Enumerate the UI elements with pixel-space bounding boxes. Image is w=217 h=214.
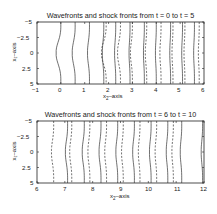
bottom-wavefront-curve <box>82 121 84 183</box>
top-shock-front-curve <box>118 22 121 84</box>
top-wavefront-curve <box>170 22 171 84</box>
bottom-shock-front-curve <box>155 121 157 183</box>
bottom-shock-front-curve <box>172 121 173 183</box>
bottom-shock-front-curve <box>138 121 140 183</box>
bottom-wavefront-curve <box>116 121 118 183</box>
top-wavefront-curve <box>129 22 130 84</box>
bottom-shock-front-curve <box>88 121 90 183</box>
bottom-wavefront-curve <box>149 121 151 183</box>
top-wavefront-curve <box>155 22 156 84</box>
top-shock-front-curve <box>198 22 199 84</box>
bottom-wavefront-curve <box>133 121 135 183</box>
top-shock-front-curve <box>184 22 185 84</box>
top-shock-front-curve <box>145 22 146 84</box>
top-wavefront-curve <box>88 22 90 84</box>
top-shock-front-curve <box>130 22 132 84</box>
bottom-shock-front-curve <box>70 121 72 183</box>
bottom-axes-box <box>37 121 204 183</box>
bottom-wavefront-curve <box>99 121 101 183</box>
top-wavefront-curve <box>72 22 75 84</box>
bottom-wavefront-curve <box>180 121 181 183</box>
bottom-shock-front-curve <box>105 121 107 183</box>
bottom-shock-front-curve <box>51 121 53 183</box>
top-shock-front-curve <box>172 22 173 84</box>
top-wavefront-curve <box>115 22 116 84</box>
top-wavefront-curve <box>194 22 195 84</box>
top-shock-front-curve <box>160 22 161 84</box>
plot-area <box>0 0 217 214</box>
top-wavefront-curve <box>182 22 183 84</box>
top-wavefront-curve <box>56 22 61 84</box>
bottom-wavefront-curve <box>166 121 168 183</box>
bottom-shock-front-curve <box>122 121 124 183</box>
top-wavefront-curve <box>143 22 144 84</box>
figure: Wavefronts and shock fronts from t = 0 t… <box>0 0 217 214</box>
bottom-wavefront-curve <box>65 121 67 183</box>
top-wavefront-curve <box>102 22 103 84</box>
